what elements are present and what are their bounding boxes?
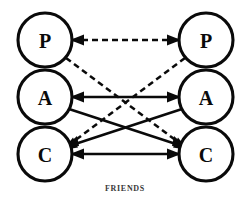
right-person-column: P A C — [179, 13, 233, 181]
ego-state-left-parent-label: P — [39, 30, 51, 52]
ego-state-left-child-label: C — [38, 144, 52, 166]
ego-state-left-adult-label: A — [38, 87, 53, 109]
ego-state-right-parent-label: P — [200, 30, 212, 52]
transactional-analysis-diagram: P A C P A C FRIENDS — [0, 0, 251, 203]
ta-diagram-container: P A C P A C FRIENDS — [0, 0, 251, 203]
left-person-column: P A C — [18, 13, 72, 181]
figure-caption: FRIENDS — [105, 184, 145, 193]
ego-state-right-adult-label: A — [199, 87, 214, 109]
ego-state-right-child-label: C — [199, 144, 213, 166]
